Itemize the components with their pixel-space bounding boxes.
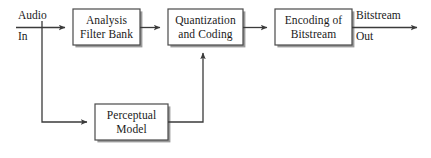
block-rect-encoding-of-bitstream (275, 9, 352, 45)
block-rect-quantization-and-coding (168, 9, 243, 45)
block-rectangles (73, 9, 354, 142)
io-label-audio-in-top: Audio (18, 9, 47, 22)
block-rect-analysis-filter-bank (73, 9, 140, 45)
block-rect-perceptual-model (95, 104, 168, 140)
io-label-bitstream-out-top: Bitstream (356, 9, 401, 22)
diagram-canvas (0, 0, 431, 158)
connector-perceptual-model-to-quantization (168, 53, 203, 122)
io-label-audio-in-bottom: In (18, 30, 28, 43)
block-diagram: Analysis Filter Bank Quantization and Co… (0, 0, 431, 158)
io-label-bitstream-out-bottom: Out (356, 30, 373, 43)
